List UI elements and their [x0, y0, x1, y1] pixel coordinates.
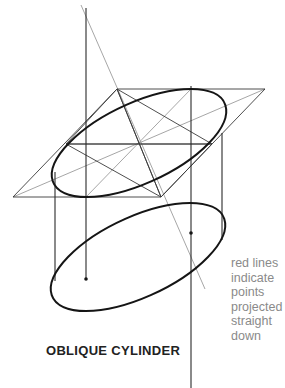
- projection-lines: [55, 8, 222, 388]
- bottom-ellipse: [16, 203, 260, 311]
- caption-line: projected: [231, 300, 282, 315]
- caption-note: red lines indicate points projected stra…: [231, 256, 282, 344]
- construction-lines: [13, 5, 265, 289]
- projected-point-left: [84, 277, 88, 281]
- diagram-title: OBLIQUE CYLINDER: [46, 343, 180, 358]
- caption-line: red lines: [231, 256, 282, 271]
- caption-line: down: [231, 329, 282, 344]
- caption-line: straight: [231, 314, 282, 329]
- long-diagonal-line: [81, 5, 205, 289]
- projected-point-right: [189, 231, 193, 235]
- caption-line: indicate: [231, 271, 282, 286]
- caption-line: points: [231, 285, 282, 300]
- projected-points: [84, 231, 193, 281]
- cylinder-faces: [16, 89, 261, 311]
